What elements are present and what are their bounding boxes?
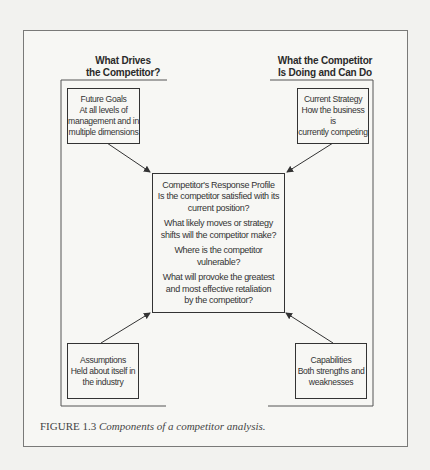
question-line: shifts will the competitor make?: [161, 230, 276, 242]
figure-caption: FIGURE 1.3 Components of a competitor an…: [40, 420, 266, 432]
box-line: Held about itself in: [71, 366, 136, 377]
box-title: Capabilities: [311, 355, 352, 366]
box-line: currently competing: [298, 127, 367, 138]
question-line: What will provoke the greatest: [163, 272, 275, 284]
heading-line: What the Competitor: [272, 55, 378, 67]
question-line: What likely moves or strategy: [161, 218, 276, 230]
assumptions-box: Assumptions Held about itself in the ind…: [67, 343, 139, 399]
question-line: by the competitor?: [163, 295, 275, 307]
question-block: What likely moves or strategy shifts wil…: [161, 218, 276, 241]
box-title: Current Strategy: [304, 94, 362, 105]
heading-what-drives: What Drives the Competitor?: [78, 55, 168, 79]
box-line: the industry: [83, 377, 124, 388]
box-line: How the business is: [298, 105, 368, 127]
question-line: Is the competitor satisfied with its: [158, 191, 279, 203]
box-title: Future Goals: [80, 94, 126, 105]
question-line: current position?: [158, 203, 279, 215]
caption-text: Components of a competitor analysis.: [99, 420, 266, 432]
heading-line: Is Doing and Can Do: [272, 67, 378, 79]
box-line: Both strengths and: [298, 366, 365, 377]
current-strategy-box: Current Strategy How the business is cur…: [297, 88, 369, 144]
box-line: multiple dimensions: [69, 127, 139, 138]
question-block: Where is the competitor vulnerable?: [153, 245, 284, 268]
box-title: Competitor's Response Profile: [158, 180, 279, 192]
box-line: weaknesses: [309, 377, 353, 388]
heading-line: What Drives: [78, 55, 168, 67]
heading-what-doing: What the Competitor Is Doing and Can Do: [272, 55, 378, 79]
question-line: and most effective retaliation: [163, 284, 275, 296]
box-title: Assumptions: [80, 355, 126, 366]
profile-block: Competitor's Response Profile Is the com…: [158, 180, 279, 215]
question-line: Where is the competitor vulnerable?: [153, 245, 284, 268]
box-line: At all levels of: [79, 105, 127, 116]
box-line: management and in: [68, 116, 139, 127]
heading-line: the Competitor?: [78, 67, 168, 79]
capabilities-box: Capabilities Both strengths and weakness…: [295, 343, 367, 399]
question-block: What will provoke the greatest and most …: [163, 272, 275, 307]
response-profile-box: Competitor's Response Profile Is the com…: [152, 173, 285, 313]
caption-label: FIGURE 1.3: [40, 420, 96, 432]
future-goals-box: Future Goals At all levels of management…: [67, 88, 140, 144]
